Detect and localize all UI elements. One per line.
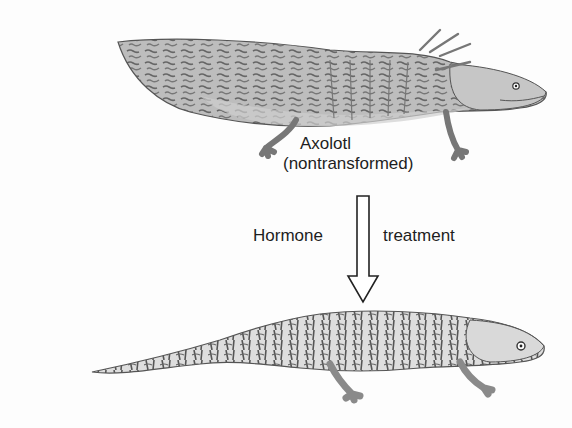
diagram-illustration: [0, 0, 572, 428]
axolotl-sublabel: (nontransformed): [283, 154, 413, 174]
salamander-illustration: [92, 311, 544, 400]
axolotl-label: Axolotl: [300, 134, 351, 154]
diagram-canvas: Axolotl (nontransformed) Hormone treatme…: [0, 0, 572, 428]
down-arrow-icon: [348, 196, 378, 302]
arrow-label-left: Hormone: [253, 226, 323, 246]
arrow-label-right: treatment: [383, 226, 455, 246]
